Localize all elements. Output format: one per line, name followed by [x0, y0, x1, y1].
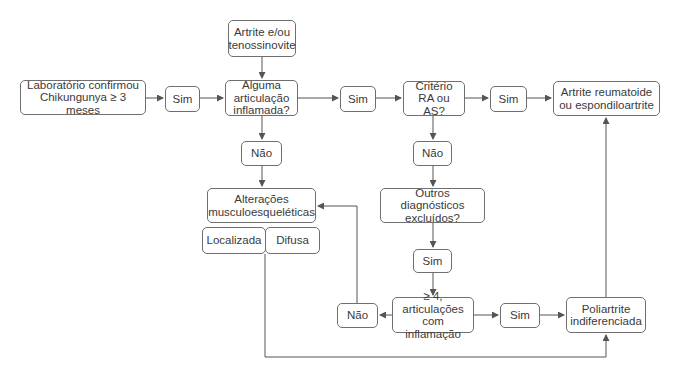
node-rheumatoid-or-spondyloarthritis: Artrite reumatoide ou espondiloartrite: [553, 81, 660, 116]
node-inflamed-joint-question: Alguma articulação inflamada?: [225, 80, 298, 116]
node-other-diagnoses-excluded-question: Outros diagnósticos excluídos?: [380, 188, 485, 223]
node-diffuse: Difusa: [265, 227, 320, 254]
node-undifferentiated-polyarthritis: Poliartrite indiferenciada: [566, 297, 646, 333]
node-yes-5: Sim: [500, 303, 540, 328]
node-no-3: Não: [337, 303, 378, 328]
node-yes-4: Sim: [413, 249, 452, 273]
node-four-or-more-joints: ≥ 4, articulações com inflamação: [392, 297, 474, 333]
node-lab-confirmed: Laboratório confirmou Chikungunya ≥ 3 me…: [20, 80, 146, 115]
node-arthritis-tenosynovitis: Artrite e/ou tenossinovite: [228, 20, 296, 57]
node-yes-3: Sim: [490, 86, 527, 112]
node-ra-as-criteria-question: Critério RA ou AS?: [403, 81, 465, 116]
flowchart-canvas: Artrite e/ou tenossinovite Laboratório c…: [0, 0, 677, 372]
node-musculoskeletal-changes: Alterações musculoesqueléticas: [207, 188, 316, 223]
node-localized: Localizada: [202, 227, 266, 254]
node-yes-2: Sim: [340, 86, 376, 112]
node-no-2: Não: [413, 141, 452, 166]
node-yes-1: Sim: [165, 86, 200, 112]
node-no-1: Não: [241, 141, 282, 166]
